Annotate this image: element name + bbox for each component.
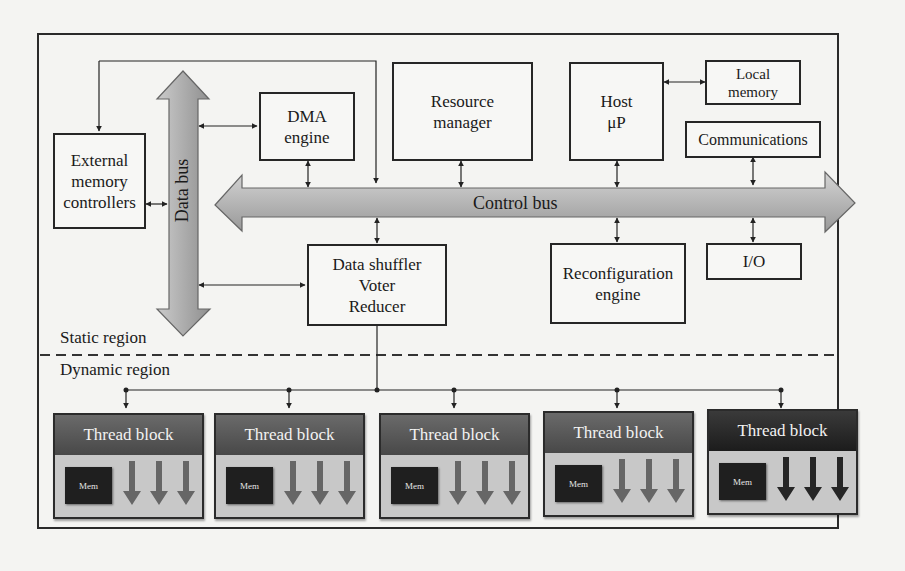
thread-arrows-icon [611, 459, 691, 509]
host-microprocessor-box: Host μP [569, 62, 664, 161]
thread-arrows-icon [775, 457, 855, 507]
thread-block-2: Thread block Mem [214, 413, 365, 519]
io-box: I/O [706, 243, 802, 280]
resource-manager-box: Resource manager [392, 62, 533, 161]
thread-block-4: Thread block Mem [543, 411, 694, 517]
static-region-label: Static region [60, 328, 146, 348]
dynamic-region-label: Dynamic region [60, 360, 170, 380]
thread-block-title: Thread block [545, 413, 692, 453]
local-memory-box: Local memory [705, 60, 801, 105]
communications-box: Communications [685, 121, 821, 158]
thread-block-3: Thread block Mem [379, 413, 530, 519]
thread-block-title: Thread block [55, 415, 202, 455]
thread-block-title: Thread block [216, 415, 363, 455]
thread-block-1: Thread block Mem [53, 413, 204, 519]
thread-block-mem: Mem [226, 467, 273, 504]
data-shuffler-voter-reducer-box: Data shuffler Voter Reducer [307, 244, 447, 326]
data-bus-label: Data bus [172, 155, 193, 227]
thread-block-title: Thread block [381, 415, 528, 455]
thread-block-mem: Mem [65, 467, 112, 504]
thread-arrows-icon [282, 461, 362, 511]
reconfiguration-engine-box: Reconfiguration engine [550, 243, 686, 324]
thread-block-title: Thread block [709, 411, 856, 451]
thread-arrows-icon [447, 461, 527, 511]
dma-engine-box: DMA engine [259, 92, 355, 161]
thread-block-mem: Mem [719, 463, 766, 500]
control-bus-label: Control bus [473, 193, 558, 214]
thread-arrows-icon [121, 461, 201, 511]
thread-block-mem: Mem [391, 467, 438, 504]
external-memory-controllers-box: External memory controllers [53, 133, 146, 229]
thread-block-mem: Mem [555, 465, 602, 502]
thread-block-5: Thread block Mem [707, 409, 858, 515]
